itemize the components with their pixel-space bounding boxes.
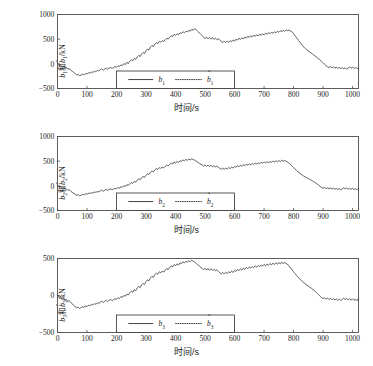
x-tick-label: 300 bbox=[140, 212, 152, 221]
x-tick-label: 600 bbox=[229, 212, 241, 221]
x-tick-label: 800 bbox=[288, 334, 300, 343]
x-tick-label: 800 bbox=[288, 90, 300, 99]
x-tick-label: 600 bbox=[229, 90, 241, 99]
x-tick-label: 900 bbox=[317, 90, 329, 99]
chart-panel-1: 01002003004005006007008009001000−5000500… bbox=[0, 0, 373, 122]
chart-panel-2: 01002003004005006007008009001000−5000500… bbox=[0, 122, 373, 244]
x-axis-label-2: 时间/s bbox=[0, 223, 373, 236]
x-tick-label: 700 bbox=[258, 212, 270, 221]
x-tick-label: 1000 bbox=[345, 90, 360, 99]
x-tick-label: 700 bbox=[258, 90, 270, 99]
x-tick-label: 700 bbox=[258, 334, 270, 343]
x-tick-label: 900 bbox=[317, 212, 329, 221]
x-tick-label: 300 bbox=[140, 90, 152, 99]
x-tick-label: 900 bbox=[317, 334, 329, 343]
legend-3: b3b3ˆ bbox=[117, 314, 235, 333]
x-tick-label: 600 bbox=[229, 334, 241, 343]
x-tick-label: 400 bbox=[170, 334, 182, 343]
x-axis-label-1: 时间/s bbox=[0, 101, 373, 114]
x-axis-label-3: 时间/s bbox=[0, 345, 373, 358]
x-tick-label: 400 bbox=[170, 90, 182, 99]
x-tick-label: 800 bbox=[288, 212, 300, 221]
chart-panel-3: 01002003004005006007008009001000−5000500… bbox=[0, 244, 373, 366]
x-tick-label: 500 bbox=[199, 334, 211, 343]
x-tick-label: 500 bbox=[199, 90, 211, 99]
x-tick-label: 1000 bbox=[345, 334, 360, 343]
x-tick-label: 400 bbox=[170, 212, 182, 221]
x-tick-label: 500 bbox=[199, 212, 211, 221]
figure-three-panel-bias-plots: 01002003004005006007008009001000−5000500… bbox=[0, 0, 373, 366]
legend-1: b1b1ˆ bbox=[117, 70, 235, 89]
legend-2: b2b2ˆ bbox=[117, 192, 235, 211]
x-tick-label: 300 bbox=[140, 334, 152, 343]
x-tick-label: 1000 bbox=[345, 212, 360, 221]
